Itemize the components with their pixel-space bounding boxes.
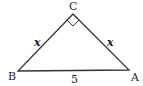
side-label-bc: x xyxy=(33,36,41,49)
vertex-label-c: C xyxy=(69,0,77,13)
right-angle-marker xyxy=(67,20,79,26)
vertex-label-b: B xyxy=(8,70,16,83)
side-label-ca: x xyxy=(106,36,114,49)
triangle-diagram: C B A x x 5 xyxy=(0,0,143,86)
vertex-label-a: A xyxy=(130,71,140,84)
side-label-ba: 5 xyxy=(71,73,78,86)
